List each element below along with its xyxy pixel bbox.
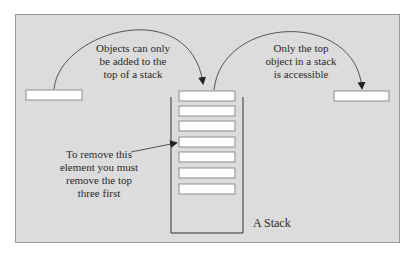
stack-slot-7 <box>179 184 235 194</box>
push-annotation-line-3: top of a stack <box>88 68 178 81</box>
stack-container <box>171 97 243 233</box>
pop-annotation-line-2: object in a stack <box>256 55 346 68</box>
stack-slots <box>179 91 235 194</box>
pop-annotation-line-3: is accessible <box>256 68 346 81</box>
push-annotation: Objects can only be added to the top of … <box>88 42 178 81</box>
stack-slot-5 <box>179 152 235 162</box>
pop-annotation-line-1: Only the top <box>256 42 346 55</box>
stack-label: A Stack <box>253 216 291 231</box>
remove-annotation: To remove this element you must remove t… <box>54 148 144 200</box>
remove-annotation-line-2: element you must <box>54 161 144 174</box>
stack-slot-6 <box>179 168 235 178</box>
diagram-graphics <box>0 0 416 254</box>
incoming-object-box <box>26 90 82 100</box>
stack-slot-3 <box>179 121 235 131</box>
remove-annotation-line-1: To remove this <box>54 148 144 161</box>
stack-slot-2 <box>179 106 235 116</box>
remove-annotation-line-4: three first <box>54 187 144 200</box>
outgoing-object-box <box>334 91 389 101</box>
stack-slot-4 <box>179 137 235 147</box>
push-annotation-line-2: be added to the <box>88 55 178 68</box>
push-annotation-line-1: Objects can only <box>88 42 178 55</box>
pop-annotation: Only the top object in a stack is access… <box>256 42 346 81</box>
remove-annotation-line-3: remove the top <box>54 174 144 187</box>
stack-slot-1 <box>179 91 235 101</box>
